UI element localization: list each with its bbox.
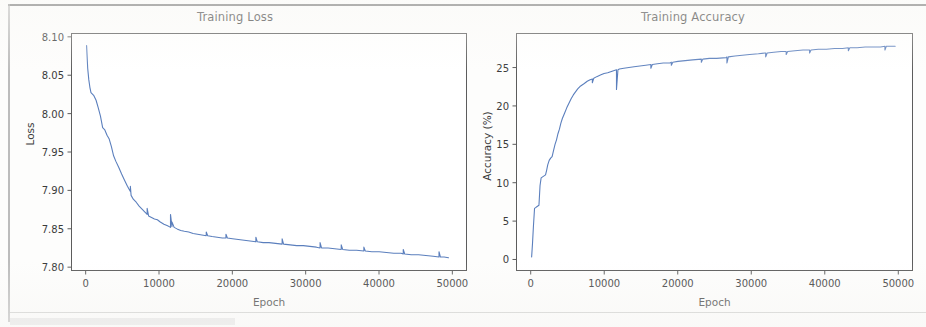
training-accuracy-y-axis-label: Accuracy (%) xyxy=(481,91,493,201)
training-loss-x-axis-label: Epoch xyxy=(71,296,467,308)
training-loss-y-axis-label: Loss xyxy=(24,94,36,174)
training-loss-figure: Training Loss 7.807.857.907.958.008.058.… xyxy=(0,0,470,327)
scanned-page: Training Loss 7.807.857.907.958.008.058.… xyxy=(0,0,926,327)
training-accuracy-tick-marks xyxy=(460,0,926,327)
training-loss-tick-marks xyxy=(0,0,470,327)
training-accuracy-figure: Training Accuracy 0510152025 01000020000… xyxy=(460,0,926,327)
training-accuracy-x-axis-label: Epoch xyxy=(516,296,913,308)
